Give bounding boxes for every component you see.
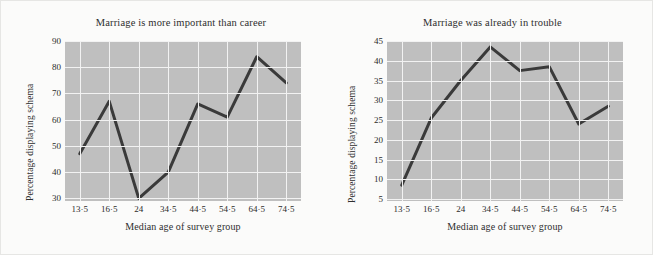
series-line-right (387, 41, 623, 201)
gridline-vertical (490, 41, 491, 201)
gridline-vertical (431, 41, 432, 201)
gridline-horizontal (65, 93, 301, 94)
figure-container: Marriage is more important than career P… (0, 0, 653, 255)
gridline-horizontal (387, 160, 623, 161)
gridline-horizontal (65, 198, 301, 199)
gridline-horizontal (387, 61, 623, 62)
y-tick-label: 5 (379, 195, 384, 204)
chart-panel-left: Marriage is more important than career P… (1, 1, 335, 254)
x-tick-label: 34·5 (160, 204, 177, 215)
gridline-horizontal (65, 146, 301, 147)
gridline-horizontal (65, 172, 301, 173)
y-tick-label: 10 (374, 175, 383, 184)
y-axis-label-right: Percentage displaying schema (347, 86, 357, 203)
x-tick-label: 64·5 (249, 204, 266, 215)
x-tick-label: 34·5 (482, 204, 499, 215)
x-tick-label: 44·5 (190, 204, 207, 215)
x-axis-ticks-left: 13·516·52434·544·554·564·574·5 (65, 204, 301, 220)
y-tick-label: 25 (374, 116, 383, 125)
gridline-horizontal (387, 100, 623, 101)
gridline-vertical (402, 41, 403, 201)
x-tick-label: 24 (456, 204, 465, 215)
gridline-horizontal (387, 41, 623, 42)
y-tick-label: 30 (374, 96, 383, 105)
y-tick-label: 70 (52, 89, 61, 98)
y-tick-label: 45 (374, 37, 383, 46)
gridline-horizontal (387, 81, 623, 82)
gridline-vertical (549, 41, 550, 201)
gridline-vertical (227, 41, 228, 201)
gridline-vertical (520, 41, 521, 201)
series-line-left (65, 41, 301, 201)
gridline-vertical (139, 41, 140, 201)
y-axis-ticks-right: 51015202530354045 (357, 41, 383, 201)
gridline-horizontal (65, 41, 301, 42)
gridline-vertical (80, 41, 81, 201)
y-tick-label: 90 (52, 37, 61, 46)
x-tick-label: 74·5 (278, 204, 295, 215)
x-tick-label: 54·5 (219, 204, 236, 215)
x-axis-ticks-right: 13·516·52434·544·554·564·574·5 (387, 204, 623, 220)
chart-title-right: Marriage was already in trouble (335, 17, 652, 28)
y-tick-label: 30 (52, 194, 61, 203)
y-tick-label: 40 (374, 56, 383, 65)
x-tick-label: 74·5 (600, 204, 617, 215)
x-tick-label: 16·5 (423, 204, 440, 215)
y-tick-label: 60 (52, 115, 61, 124)
plot-area-right (387, 41, 623, 201)
gridline-vertical (286, 41, 287, 201)
gridline-horizontal (387, 199, 623, 200)
y-tick-label: 15 (374, 155, 383, 164)
plot-area-left (65, 41, 301, 201)
y-axis-label-left: Percentage displaying schema (25, 84, 35, 201)
x-tick-label: 13·5 (72, 204, 89, 215)
y-tick-label: 35 (374, 76, 383, 85)
gridline-horizontal (387, 179, 623, 180)
chart-panel-right: Marriage was already in trouble Percenta… (335, 1, 652, 254)
y-tick-label: 20 (374, 135, 383, 144)
x-axis-label-left: Median age of survey group (65, 221, 301, 232)
gridline-horizontal (65, 67, 301, 68)
gridline-horizontal (387, 120, 623, 121)
x-tick-label: 24 (134, 204, 143, 215)
y-tick-label: 80 (52, 63, 61, 72)
x-tick-label: 64·5 (571, 204, 588, 215)
x-tick-label: 54·5 (541, 204, 558, 215)
y-tick-label: 40 (52, 168, 61, 177)
gridline-vertical (257, 41, 258, 201)
chart-title-left: Marriage is more important than career (1, 17, 335, 28)
gridline-vertical (461, 41, 462, 201)
y-tick-label: 50 (52, 141, 61, 150)
x-tick-label: 16·5 (101, 204, 118, 215)
gridline-vertical (109, 41, 110, 201)
gridline-vertical (198, 41, 199, 201)
gridline-horizontal (387, 140, 623, 141)
y-axis-ticks-left: 30405060708090 (35, 41, 61, 201)
gridline-vertical (608, 41, 609, 201)
gridline-vertical (579, 41, 580, 201)
x-axis-label-right: Median age of survey group (387, 221, 623, 232)
x-tick-label: 13·5 (394, 204, 411, 215)
gridline-vertical (168, 41, 169, 201)
gridline-horizontal (65, 120, 301, 121)
x-tick-label: 44·5 (512, 204, 529, 215)
